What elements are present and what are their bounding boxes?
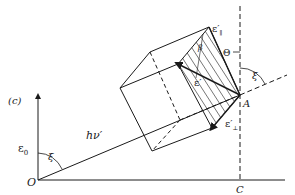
e0-label: ε0 bbox=[18, 142, 28, 157]
beta-label: β bbox=[197, 43, 203, 52]
xi-right-label: ξ bbox=[252, 70, 258, 81]
point-a-label: A bbox=[242, 98, 250, 109]
e-parallel-label: ε′∥ bbox=[212, 23, 222, 36]
origin-label: O bbox=[27, 176, 36, 189]
e-prime-label: ε′ bbox=[194, 77, 202, 88]
e-perp-label: ε′⊥ bbox=[225, 118, 238, 131]
cube bbox=[120, 27, 240, 151]
polarization-diagram: (c) O C A ε0 ξ hν′ ξ Θ β ε′∥ ε′ ε′⊥ bbox=[0, 0, 295, 195]
e-parallel-vector bbox=[209, 27, 240, 95]
photon-direction-line bbox=[38, 95, 240, 180]
photon-direction-extension bbox=[240, 75, 287, 95]
panel-label: (c) bbox=[8, 95, 22, 106]
xi-left-label: ξ bbox=[48, 151, 54, 162]
photon-label: hν′ bbox=[86, 129, 103, 142]
point-c-label: C bbox=[236, 184, 244, 195]
theta-label: Θ bbox=[223, 48, 230, 58]
e-prime-vector bbox=[178, 64, 240, 95]
